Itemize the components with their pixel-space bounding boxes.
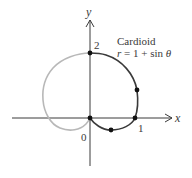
origin-label: 0 (81, 131, 87, 143)
x-axis-label: x (174, 111, 181, 125)
y-axis-label: y (85, 5, 92, 19)
point-origin (88, 116, 93, 121)
equation-rest: = 1 + sin (121, 47, 166, 59)
point-lowest (109, 128, 114, 133)
cardioid-left-half (43, 53, 90, 130)
curve-equation: r = 1 + sin θ (117, 47, 172, 59)
curve-title: Cardioid (117, 35, 156, 47)
y-tick-label: 2 (94, 39, 100, 51)
equation-theta: θ (166, 47, 172, 59)
point-top (88, 51, 93, 56)
x-tick-label: 1 (138, 122, 144, 134)
cardioid-diagram: y x 2 1 0 Cardioid r = 1 + sin θ (0, 0, 192, 178)
point-x-intercept (133, 116, 138, 121)
point-rightmost (135, 88, 140, 93)
